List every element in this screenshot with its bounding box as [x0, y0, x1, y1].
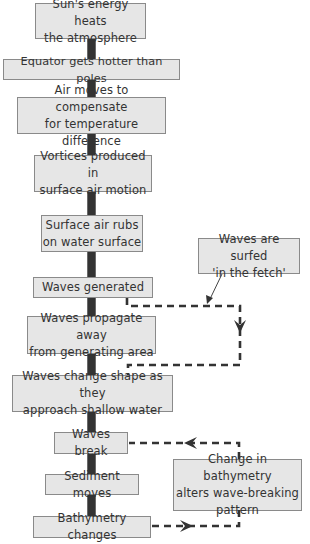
box-surface-air-rubs: Surface air rubs on water surface: [41, 215, 143, 252]
box-bathymetry-changes-text: Bathymetry changes: [34, 510, 150, 544]
arrow-right-icon: [180, 520, 193, 532]
box-vortices: Vortices produced in surface air motion: [34, 155, 152, 192]
box-waves-generated: Waves generated: [33, 277, 153, 298]
box-sun-energy-text: Sun's energy heats the atmosphere: [36, 0, 145, 47]
arrow-left-icon: [184, 437, 197, 449]
box-sediment-moves: Sediment moves: [45, 474, 139, 495]
box-equator-hotter: Equator gets hotter than poles: [3, 59, 180, 80]
box-surface-air-rubs-text: Surface air rubs on water surface: [43, 217, 142, 251]
box-waves-propagate-text: Waves propagate away from generating are…: [28, 310, 155, 361]
box-waves-change-shape: Waves change shape as they approach shal…: [12, 375, 173, 412]
box-air-moves-text: Air moves to compensate for temperature …: [18, 82, 165, 150]
note-bathymetry-feedback: Change in bathymetry alters wave-breakin…: [173, 459, 302, 511]
box-waves-propagate: Waves propagate away from generating are…: [27, 316, 156, 354]
arrow-pointer-icon: [206, 295, 213, 304]
box-waves-generated-text: Waves generated: [42, 279, 144, 296]
note-surfed-in-fetch-text: Waves are surfed 'in the fetch': [199, 231, 299, 282]
arrow-down-icon: [234, 320, 246, 333]
note-bathymetry-feedback-text: Change in bathymetry alters wave-breakin…: [174, 451, 301, 519]
note-surfed-in-fetch: Waves are surfed 'in the fetch': [198, 238, 300, 274]
box-sun-energy: Sun's energy heats the atmosphere: [35, 3, 146, 39]
wave-formation-flowchart: Sun's energy heats the atmosphere Equato…: [0, 0, 310, 544]
box-waves-change-shape-text: Waves change shape as they approach shal…: [13, 368, 172, 419]
box-waves-break-text: Waves break: [55, 426, 127, 460]
box-sediment-moves-text: Sediment moves: [46, 468, 138, 502]
box-vortices-text: Vortices produced in surface air motion: [35, 148, 151, 199]
box-air-moves: Air moves to compensate for temperature …: [17, 97, 166, 134]
box-waves-break: Waves break: [54, 432, 128, 454]
box-bathymetry-changes: Bathymetry changes: [33, 516, 151, 538]
